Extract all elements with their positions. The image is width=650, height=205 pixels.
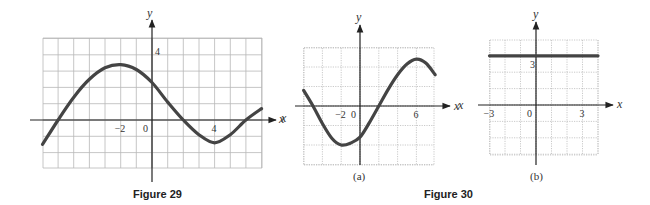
- figure-30b-chart: x x y −3033 (b): [457, 7, 623, 183]
- figure-29-chart: x y −2044: [30, 6, 285, 182]
- y-tick-label: 3: [530, 59, 535, 70]
- figure-30a-curve: [304, 59, 436, 145]
- figure-30a-y-label: y: [355, 10, 362, 24]
- y-tick-label: 4: [155, 46, 160, 57]
- x-tick-label: 0: [527, 108, 532, 119]
- x-tick-label: −3: [484, 108, 495, 119]
- x-tick-label: 0: [351, 109, 356, 120]
- x-tick-label: 0: [143, 123, 148, 134]
- figure-30b-y-label: y: [532, 7, 539, 21]
- figures-canvas: x y −2044 x x y −206 (a) x x y −3033 (b): [0, 0, 650, 205]
- figure-29-caption: Figure 29: [133, 188, 182, 200]
- x-tick-label: −2: [115, 123, 126, 134]
- x-tick-label: −2: [335, 109, 346, 120]
- figure-30-caption: Figure 30: [424, 188, 473, 200]
- figure-29-tick-labels: −2044: [115, 46, 217, 134]
- figure-29-y-label: y: [146, 6, 153, 20]
- figure-30a-panel-label: (a): [353, 170, 366, 183]
- figure-30b-x-label: x: [616, 97, 623, 111]
- figure-30b-left-x-label: x: [457, 98, 464, 112]
- x-tick-label: 6: [413, 109, 418, 120]
- x-tick-label: 3: [580, 108, 585, 119]
- figure-30b-panel-label: (b): [530, 170, 543, 183]
- figure-30a-left-x-label: x: [280, 111, 287, 125]
- x-tick-label: 4: [212, 123, 217, 134]
- figure-30a-chart: x x y −206 (a): [280, 10, 460, 183]
